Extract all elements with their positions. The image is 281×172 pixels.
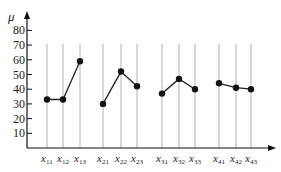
- x-tick-label: x12: [56, 152, 69, 166]
- data-point: [233, 85, 239, 91]
- data-point: [159, 90, 165, 96]
- y-axis-arrow-icon: [24, 11, 30, 19]
- x-tick-label: x21: [96, 152, 109, 166]
- data-point: [176, 76, 182, 82]
- y-tick-label: 50: [13, 68, 25, 82]
- y-axis-label: μ: [7, 9, 15, 24]
- y-tick-label: 40: [13, 82, 25, 96]
- x-tick-label: x23: [130, 152, 143, 166]
- x-tick-label: x43: [244, 152, 257, 166]
- x-tick-label: x22: [114, 152, 127, 166]
- series-line: [103, 72, 137, 104]
- data-point: [192, 86, 198, 92]
- x-tick-label: x41: [212, 152, 225, 166]
- data-point: [100, 101, 106, 107]
- y-tick-label: 20: [13, 112, 25, 126]
- data-point: [118, 68, 124, 74]
- y-tick-label: 70: [13, 38, 25, 52]
- data-point: [77, 58, 83, 64]
- x-tick-labels: x11x12x13x21x22x23x31x32x33x41x42x43: [40, 152, 257, 166]
- x-axis-arrow-icon: [268, 145, 276, 151]
- y-tick-label: 30: [13, 97, 25, 111]
- x-tick-label: x42: [229, 152, 242, 166]
- x-axis: [27, 145, 276, 151]
- y-tick-label: 10: [13, 126, 25, 140]
- x-tick-label: x32: [172, 152, 185, 166]
- x-tick-label: x33: [188, 152, 201, 166]
- y-tick-label: 80: [13, 23, 25, 37]
- y-ticks: 1020304050607080: [13, 23, 32, 140]
- data-point: [216, 80, 222, 86]
- line-chart: μ 1020304050607080 x11x12x13x21x22x23x31…: [0, 0, 281, 172]
- data-point: [44, 96, 50, 102]
- data-point: [60, 96, 66, 102]
- x-tick-label: x11: [40, 152, 53, 166]
- x-tick-label: x13: [73, 152, 86, 166]
- x-tick-label: x31: [155, 152, 168, 166]
- y-tick-label: 60: [13, 53, 25, 67]
- data-series: [44, 58, 254, 107]
- data-point: [248, 86, 254, 92]
- data-point: [134, 83, 140, 89]
